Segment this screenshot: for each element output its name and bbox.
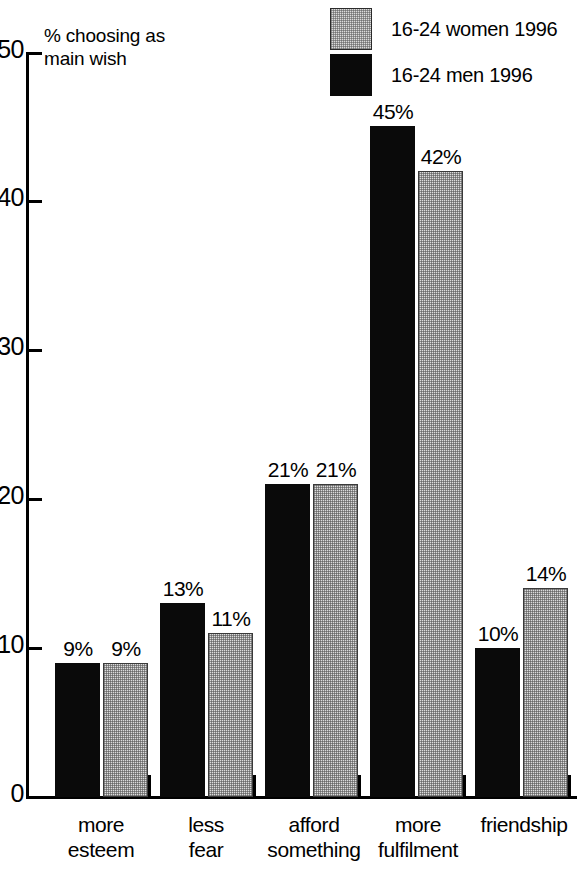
- bar-chart: % choosing as main wish 16-24 women 1996…: [0, 0, 587, 885]
- bar-women-less-fear[interactable]: [208, 633, 253, 797]
- chart-legend: 16-24 women 1996 16-24 men 1996: [330, 6, 580, 98]
- category-label-friendship: friendship: [466, 812, 582, 837]
- category-label-less-fear: less fear: [156, 812, 256, 862]
- legend-item-men: 16-24 men 1996: [330, 52, 580, 98]
- bar-value-men-friendship: 10%: [469, 622, 527, 646]
- bar-value-men-less-fear: 13%: [154, 577, 212, 601]
- bar-value-women-more-esteem: 9%: [97, 637, 155, 661]
- y-axis-title: % choosing as main wish: [44, 24, 165, 70]
- bar-value-men-more-fulfilment: 45%: [364, 100, 422, 124]
- bar-women-afford-something[interactable]: [313, 484, 358, 797]
- y-tick-20: [29, 498, 42, 501]
- bar-men-afford-something[interactable]: [265, 484, 310, 797]
- bar-men-more-fulfilment[interactable]: [370, 126, 415, 797]
- x-tick-sep-5: [568, 775, 571, 796]
- x-tick-sep-4: [463, 775, 466, 796]
- bar-women-more-esteem[interactable]: [103, 663, 148, 797]
- category-label-afford-something: afford something: [256, 812, 372, 862]
- bar-men-more-esteem[interactable]: [55, 663, 100, 797]
- y-tick-30: [29, 349, 42, 352]
- category-label-more-esteem: more esteem: [51, 812, 151, 862]
- x-tick-sep-2: [253, 775, 256, 796]
- x-tick-sep-3: [358, 775, 361, 796]
- y-tick-0: [29, 796, 42, 799]
- y-tick-10: [29, 647, 42, 650]
- bar-men-friendship[interactable]: [475, 648, 520, 797]
- bar-men-less-fear[interactable]: [160, 603, 205, 797]
- bar-value-women-friendship: 14%: [517, 562, 575, 586]
- y-axis-line: [26, 52, 29, 798]
- bar-value-women-afford-something: 21%: [307, 458, 365, 482]
- bar-women-more-fulfilment[interactable]: [418, 171, 463, 797]
- y-tick-40: [29, 200, 42, 203]
- legend-label-women: 16-24 women 1996: [391, 18, 557, 41]
- legend-swatch-women-icon: [330, 8, 372, 50]
- y-tick-50: [29, 52, 42, 55]
- bar-value-women-more-fulfilment: 42%: [412, 145, 470, 169]
- x-tick-sep-1: [148, 775, 151, 796]
- legend-label-men: 16-24 men 1996: [391, 64, 532, 87]
- bar-value-women-less-fear: 11%: [202, 607, 260, 631]
- category-label-more-fulfilment: more fulfilment: [360, 812, 476, 862]
- legend-swatch-men-icon: [330, 54, 372, 96]
- legend-item-women: 16-24 women 1996: [330, 6, 580, 52]
- bar-women-friendship[interactable]: [523, 588, 568, 797]
